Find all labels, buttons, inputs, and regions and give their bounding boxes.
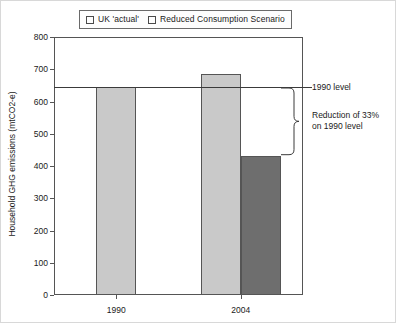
annotation-reduction-line2: on 1990 level [312,121,379,132]
y-tick-mark [50,263,54,264]
legend-swatch-reduced-consumption-scenario [148,16,156,24]
y-tick-label: 400 [8,162,48,171]
plot-area: 0100200300400500600700800 19902004 [54,37,303,295]
y-tick-label: 300 [8,194,48,203]
legend-label-reduced-consumption-scenario: Reduced Consumption Scenario [160,15,285,24]
y-tick-label: 0 [8,291,48,300]
y-tick-mark [50,231,54,232]
y-tick-label: 800 [8,33,48,42]
annotation-1990-level: 1990 level [312,82,351,93]
annotation-reduction-line1: Reduction of 33% [312,110,379,121]
y-tick-label: 600 [8,97,48,106]
x-tick-mark [116,295,117,299]
legend-item-reduced-consumption-scenario: Reduced Consumption Scenario [148,15,285,24]
bar-2004-uk-actual [201,74,241,295]
x-tick-label: 1990 [86,305,146,315]
x-tick-label: 2004 [211,305,271,315]
y-tick-mark [50,134,54,135]
x-tick-mark [241,295,242,299]
legend-item-uk-actual: UK 'actual' [86,15,139,24]
bar-1990-uk-actual [96,87,136,295]
y-tick-mark [50,295,54,296]
annotation-reduction: Reduction of 33% on 1990 level [312,110,379,132]
y-tick-mark [50,37,54,38]
y-tick-label: 100 [8,258,48,267]
legend-label-uk-actual: UK 'actual' [98,15,139,24]
chart-legend: UK 'actual' Reduced Consumption Scenario [79,10,292,29]
y-tick-mark [50,102,54,103]
y-tick-mark [50,166,54,167]
y-tick-label: 200 [8,226,48,235]
y-tick-mark [50,69,54,70]
legend-swatch-uk-actual [86,16,94,24]
bar-2004-reduced-consumption-scenario [241,156,281,295]
y-tick-label: 500 [8,129,48,138]
reference-line-1990 [54,87,311,88]
y-tick-mark [50,198,54,199]
chart-figure: UK 'actual' Reduced Consumption Scenario… [0,0,396,323]
y-tick-label: 700 [8,65,48,74]
reference-line-stub [303,87,312,88]
